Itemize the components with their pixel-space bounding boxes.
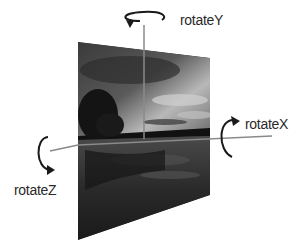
z-axis-line <box>50 145 78 151</box>
rotate-z-label: rotateZ <box>14 182 56 198</box>
rotate-x-label: rotateX <box>245 116 288 132</box>
rotate-y-arrow-icon <box>125 12 164 28</box>
rotate-y-label: rotateY <box>180 12 223 28</box>
rotate-x-arrow-icon <box>221 116 240 157</box>
image-panel <box>78 42 213 240</box>
rotate-z-arrow-icon <box>38 137 55 175</box>
